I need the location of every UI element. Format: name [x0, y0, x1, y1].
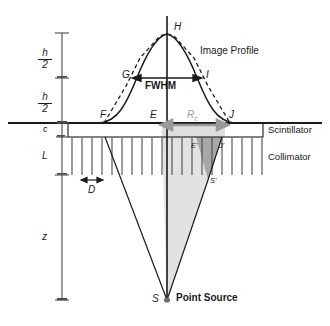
dimension-label-L: L [42, 151, 48, 161]
point-label-J-prime: J' [219, 142, 224, 150]
h-half-lower-numerator: h [38, 92, 52, 103]
h-half-upper-numerator: h [38, 48, 52, 59]
image-profile-label: Image Profile [200, 46, 259, 56]
dimension-label-z: z [42, 232, 47, 242]
left-dimension-axis [55, 33, 69, 300]
point-label-I: I [206, 70, 209, 80]
point-source-label: Point Source [176, 293, 238, 303]
point-label-G: G [122, 70, 130, 80]
point-label-J: J [229, 110, 234, 120]
point-label-E-prime: E' [191, 142, 197, 150]
point-source-marker [164, 297, 170, 302]
point-label-H: H [174, 22, 181, 32]
rc-label: Rc [187, 110, 198, 122]
layer-label-scintillator: Scintillator [268, 125, 312, 135]
fwhm-label: FWHM [145, 81, 176, 91]
dimension-label-h-half-lower: h 2 [38, 92, 52, 114]
point-label-F: F [100, 110, 106, 120]
h-half-upper-denominator: 2 [38, 59, 52, 71]
point-label-S-prime: S' [210, 177, 216, 185]
septa-pitch-label: D [88, 185, 95, 195]
dimension-label-c: c [43, 125, 48, 134]
rc-subscript: c [194, 115, 198, 122]
dimension-label-h-half-upper: h 2 [38, 48, 52, 70]
septa-pitch-arrow [81, 177, 103, 182]
point-label-E: E [150, 110, 157, 120]
h-half-lower-denominator: 2 [38, 103, 52, 115]
point-label-S: S [152, 294, 159, 304]
layer-label-collimator: Collimator [268, 152, 311, 162]
light-cone-shading [162, 137, 208, 300]
